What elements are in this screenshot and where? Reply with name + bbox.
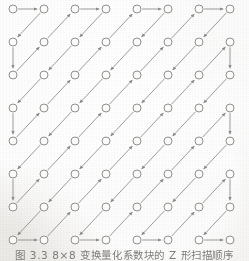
scan-arrow (48, 14, 71, 38)
coefficient-node (195, 203, 203, 211)
coefficient-node (9, 5, 17, 13)
coefficient-node (102, 38, 110, 46)
scan-arrow (172, 212, 195, 236)
coefficient-node (133, 170, 141, 178)
figure-container: 图 3.3 8×8 变换量化系数块的 Z 形扫描顺序 (0, 0, 249, 261)
coefficient-node (226, 38, 234, 46)
coefficient-node (133, 5, 141, 13)
coefficient-node (71, 137, 79, 145)
coefficient-node (133, 203, 141, 211)
scan-arrow (141, 179, 164, 203)
coefficient-node (195, 38, 203, 46)
coefficient-node (195, 5, 203, 13)
coefficient-node (226, 236, 234, 244)
scan-arrow (80, 145, 103, 169)
coefficient-node (40, 203, 48, 211)
scan-arrow (79, 113, 102, 137)
scan-arrow (80, 79, 103, 103)
coefficient-node (102, 137, 110, 145)
coefficient-node (226, 104, 234, 112)
scan-arrow (111, 112, 134, 136)
coefficient-node (133, 104, 141, 112)
scan-arrow (204, 211, 227, 235)
scan-arrow (17, 179, 40, 203)
scan-arrow (79, 47, 102, 71)
coefficient-node (133, 137, 141, 145)
scan-arrow (142, 79, 165, 103)
coefficient-node (40, 170, 48, 178)
scan-arrow (141, 113, 164, 137)
coefficient-node (102, 170, 110, 178)
scan-arrow (173, 112, 196, 136)
coefficient-node (133, 71, 141, 79)
coefficient-node (40, 38, 48, 46)
coefficient-node (40, 137, 48, 145)
scan-arrow (203, 179, 226, 203)
scan-arrow (17, 113, 40, 137)
scan-arrow (141, 47, 164, 71)
scan-arrow (49, 46, 72, 70)
coefficient-node (71, 170, 79, 178)
coefficient-node (9, 71, 17, 79)
coefficient-node (102, 71, 110, 79)
scan-arrow (80, 13, 103, 37)
scan-arrow (110, 14, 133, 38)
coefficient-node (133, 236, 141, 244)
scan-arrow (142, 13, 165, 37)
coefficient-node (195, 170, 203, 178)
scan-arrow (110, 80, 133, 104)
scan-arrow (173, 46, 196, 70)
scan-arrow (142, 145, 165, 169)
coefficient-node (9, 203, 17, 211)
scan-arrow (172, 80, 195, 104)
coefficient-node (9, 104, 17, 112)
coefficient-node (164, 104, 172, 112)
coefficient-node (226, 137, 234, 145)
coefficient-node (226, 203, 234, 211)
coefficient-node (133, 38, 141, 46)
scan-arrow (80, 211, 103, 235)
coefficient-node (9, 38, 17, 46)
coefficient-node (71, 236, 79, 244)
coefficient-node (226, 170, 234, 178)
coefficient-node (102, 104, 110, 112)
scan-arrow (203, 113, 226, 137)
scan-arrow (111, 46, 134, 70)
scan-arrow (48, 146, 71, 170)
coefficient-node (71, 5, 79, 13)
coefficient-node (9, 170, 17, 178)
scan-arrow (110, 146, 133, 170)
coefficient-node (164, 71, 172, 79)
zigzag-scan-diagram (0, 0, 249, 249)
scan-arrow (111, 178, 134, 202)
scan-arrow (142, 211, 165, 235)
scan-arrow (204, 145, 227, 169)
scan-arrow (172, 146, 195, 170)
scan-arrow (18, 79, 41, 103)
coefficient-node (195, 104, 203, 112)
coefficient-node (226, 5, 234, 13)
scan-arrow (49, 112, 72, 136)
coefficient-node (40, 236, 48, 244)
coefficient-node (102, 5, 110, 13)
coefficient-node (164, 5, 172, 13)
coefficient-node (164, 170, 172, 178)
coefficient-node (71, 38, 79, 46)
coefficient-node (9, 236, 17, 244)
coefficient-node (102, 203, 110, 211)
scan-arrow (48, 80, 71, 104)
coefficient-node (164, 137, 172, 145)
scan-arrow (79, 179, 102, 203)
figure-caption-text: 图 3.3 8×8 变换量化系数块的 Z 形扫描顺序 (0, 249, 249, 261)
coefficient-node (195, 71, 203, 79)
coefficient-node (164, 236, 172, 244)
scan-arrow (49, 178, 72, 202)
scan-arrow (17, 47, 40, 71)
scan-arrow (18, 145, 41, 169)
coefficient-node (195, 137, 203, 145)
coefficient-node (40, 104, 48, 112)
coefficient-node (71, 104, 79, 112)
scan-arrow (204, 13, 227, 37)
scan-arrow (48, 212, 71, 236)
scan-arrow (110, 212, 133, 236)
